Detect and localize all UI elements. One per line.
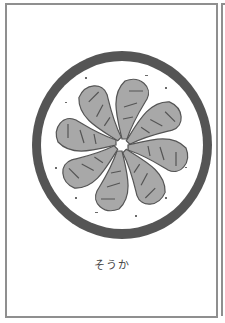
- picture-card[interactable]: そうか: [5, 3, 218, 318]
- shrimp-platter-icon: [25, 47, 215, 243]
- card-caption: そうか: [7, 256, 216, 272]
- next-card-edge[interactable]: [221, 3, 225, 316]
